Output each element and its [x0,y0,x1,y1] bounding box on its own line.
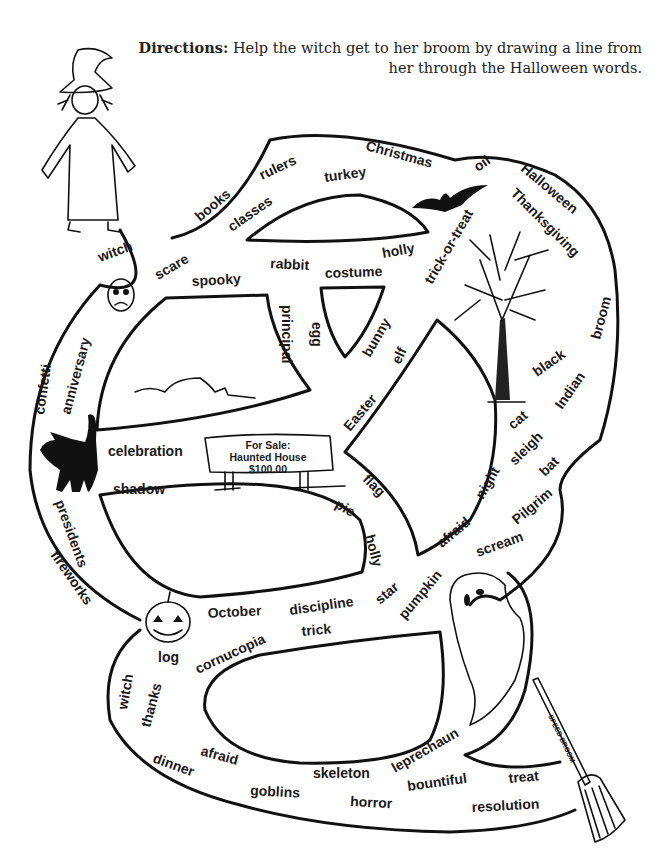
maze-word: star [372,578,402,607]
maze-word: scream [474,528,526,560]
maze-word: afraid [434,514,473,551]
maze-word: sleigh [506,428,546,468]
island-top [247,195,428,241]
maze-word: trick [301,620,332,639]
island-left [97,295,310,430]
maze-word: celebration [108,443,183,459]
rocks-grass-illustration [135,378,255,398]
maze-word: leprechaun [389,724,462,775]
maze-word: elf [388,344,410,366]
maze-word: turkey [323,163,367,185]
ghost-eye-right [476,589,484,595]
skull-icon [108,279,134,311]
maze-word: resolution [471,795,539,815]
for-sale-sign: For Sale: Haunted House $100.00 [205,434,345,490]
maze-word: holly [381,239,416,260]
maze-word: October [207,602,262,621]
maze-word: bunny [359,315,394,360]
sign-line-2: Haunted House [229,451,306,463]
maze-word: principal [279,305,295,363]
black-cat-icon [40,414,98,492]
maze-word: bountiful [406,770,468,794]
maze-word: pumpkin [395,567,445,622]
maze-word: thanks [137,681,164,729]
maze-word: Pilgrim [509,485,556,528]
maze-word: anniversary [57,336,93,416]
maze-word: rabbit [270,255,310,273]
bat-icon [412,185,488,212]
maze-word: horror [350,793,393,811]
maze-word: witch [114,673,136,712]
maze-right-lower [465,573,560,767]
maze-word: confetti [31,363,54,415]
maze-word: shadow [113,481,165,497]
tree-illustration [455,232,548,402]
maze-words: witchbooksrulersturkeyChristmasoilHallow… [31,137,614,815]
maze-word: witch [95,238,135,266]
maze-word: goblins [250,782,301,801]
maze-word: flag [360,471,389,500]
maze-word: Indian [551,369,588,412]
maze-word: broom [587,295,614,341]
maze-word: afraid [199,742,240,767]
island-mid-left [100,484,366,597]
maze-word: egg [309,322,325,347]
broom-illustration: SPEED BROOM [533,678,625,842]
maze-word: skeleton [313,765,370,781]
maze-word: Christmas [364,137,434,170]
witch-illustration [42,49,135,232]
ghost-eye-left [464,594,470,606]
maze-worksheet: For Sale: Haunted House $100.00 SPEED BR… [0,0,660,855]
maze-word: dinner [151,750,197,780]
maze-word: treat [508,767,540,786]
maze-word: costume [325,263,383,281]
sign-line-1: For Sale: [246,439,291,451]
maze-word: discipline [288,593,354,618]
maze-word: log [158,649,179,665]
sign-line-3: $100.00 [249,463,287,475]
maze-word: trick-or-treat [421,206,477,286]
maze-word: scare [152,250,192,282]
maze-word: bat [536,453,562,479]
broom-label: SPEED BROOM [547,713,576,763]
maze-word: oil [471,152,494,174]
maze-word: spooky [191,270,241,289]
maze-word: black [530,346,569,380]
maze-word: cornucopia [193,630,268,676]
maze-word: cat [505,407,531,432]
maze-word: night [472,464,503,502]
jack-o-lantern-icon [146,592,190,642]
